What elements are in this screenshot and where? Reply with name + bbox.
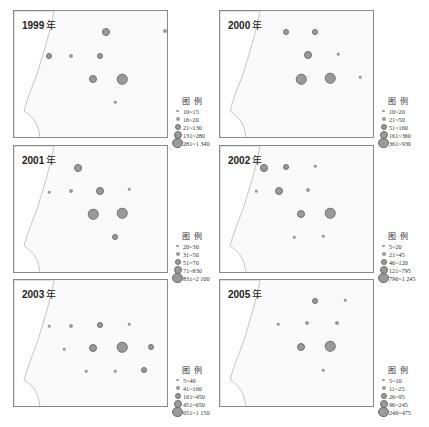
data-point [322,235,325,238]
legend-item: 10~20 [378,107,429,115]
data-point [297,210,305,218]
data-point [344,299,347,302]
data-point [359,76,362,79]
data-point [325,208,336,219]
legend-label: 51~70 [183,259,199,266]
legend: 图 例5~1011~2526~9596~245246~475 [378,364,429,416]
data-point [283,164,289,170]
panel-title: 2000年 [228,17,262,32]
legend-label: 5~20 [389,243,402,250]
data-point [97,322,103,328]
data-point [85,370,88,373]
legend-title: 图 例 [388,364,429,375]
legend-label: 161~360 [389,132,411,139]
circle-icon [382,245,385,248]
legend-label: 121~795 [389,267,411,274]
data-point [128,188,131,191]
data-point [89,75,97,83]
legend-item: 21~45 [378,250,429,258]
circle-icon [382,110,385,113]
data-point [275,187,283,195]
legend-label: 5~40 [183,377,196,384]
data-point [112,234,118,240]
map-panel-1999: 1999年 [13,10,168,138]
legend-title: 图 例 [388,230,429,241]
data-point [114,101,117,104]
panel-year-suffix: 年 [46,20,56,31]
legend-label: 5~10 [389,377,402,384]
data-point [74,164,82,172]
legend-item: 5~20 [378,242,429,250]
panel-year-suffix: 年 [46,155,56,166]
legend-label: 651~1 150 [183,409,210,416]
circle-icon [378,138,389,149]
panel-year: 2002 [228,155,250,166]
legend-item: 46~120 [378,258,429,266]
legend-label: 26~95 [389,393,405,400]
map-panel-2000: 2000年 [219,10,374,138]
data-point [89,344,97,352]
circle-icon [176,110,179,113]
panel-title: 2005年 [228,286,262,301]
circle-icon [176,386,180,390]
legend-label: 161~450 [183,393,205,400]
circle-icon [381,124,387,130]
data-point [293,236,296,239]
legend-item: 5~10 [378,376,429,384]
legend-label: 51~160 [389,124,408,131]
legend-label: 31~50 [183,251,199,258]
data-point [48,325,51,328]
data-point [69,324,73,328]
panel-year: 2000 [228,20,250,31]
panel-year: 1999 [22,20,44,31]
panel-year: 2001 [22,155,44,166]
data-point [306,188,310,192]
circle-icon [176,252,180,256]
data-point [117,74,128,85]
circle-icon [382,386,386,390]
legend-item: 51~160 [378,123,429,131]
legend-label: 71~830 [183,267,202,274]
circle-icon [176,117,180,121]
data-point [322,369,325,372]
circle-icon [381,393,387,399]
data-point [335,321,339,325]
circle-icon [382,252,386,256]
data-point [255,190,258,193]
panel-year: 2003 [22,289,44,300]
legend-label: 20~30 [183,243,199,250]
data-point [260,164,268,172]
circle-icon [176,245,179,248]
legend-item: 21~50 [378,115,429,123]
circle-icon [172,407,183,418]
legend-label: 796~1 245 [389,275,416,282]
data-point [325,341,336,352]
legend-label: 96~245 [389,401,408,408]
legend-label: 41~160 [183,385,202,392]
data-point [69,189,73,193]
data-point [48,191,51,194]
data-point [277,323,280,326]
legend-label: 281~1 340 [183,140,210,147]
circle-icon [175,124,181,130]
circle-icon [378,407,389,418]
data-point [46,53,52,59]
data-point [114,370,117,373]
map-panel-2002: 2002年 [219,145,374,273]
legend-label: 46~120 [389,259,408,266]
data-point [69,54,73,58]
data-point [102,28,110,36]
data-point [283,29,289,35]
circle-icon [172,273,183,284]
data-point [325,73,336,84]
panel-title: 2001年 [22,152,56,167]
circle-icon [175,259,181,265]
legend-item: 26~95 [378,392,429,400]
legend-label: 451~650 [183,401,205,408]
panel-year-suffix: 年 [46,289,56,300]
data-point [163,29,167,33]
panel-title: 1999年 [22,17,56,32]
data-point [304,51,312,59]
map-panel-2005: 2005年 [219,279,374,407]
panel-title: 2003年 [22,286,56,301]
